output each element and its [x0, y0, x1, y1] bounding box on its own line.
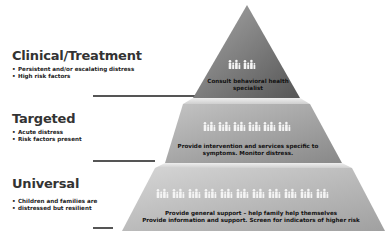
pyramid-text-line: symptoms. Monitor distress.	[173, 150, 323, 157]
pyramid-text-line: Provide general support – help family he…	[136, 210, 366, 217]
pyramid-text-line: Provide information and support. Screen …	[136, 217, 366, 224]
pyramid-text-targeted: Provide intervention and services specif…	[173, 143, 323, 157]
pyramid-diagram	[0, 0, 391, 240]
pyramid-text-universal: Provide general support – help family he…	[136, 210, 366, 224]
pyramid-text-line: specialist	[205, 85, 291, 92]
pyramid-text-line: Consult behavioral health	[205, 78, 291, 85]
pyramid-text-line: Provide intervention and services specif…	[173, 143, 323, 150]
pyramid-text-clinical: Consult behavioral health specialist	[205, 78, 291, 92]
